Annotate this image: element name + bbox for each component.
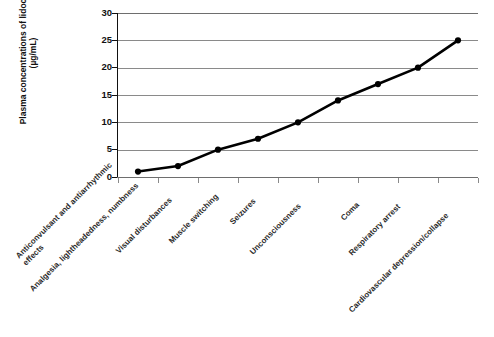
data-point	[175, 163, 181, 169]
data-point	[255, 136, 261, 142]
data-point	[335, 97, 341, 103]
data-point	[455, 37, 461, 43]
x-label-unconsciousness: Unconsciousness	[248, 172, 332, 256]
y-axis-title-line1: Plasma concentrations of lidocaine	[18, 0, 28, 124]
y-tick-label-10: 10	[90, 117, 112, 126]
y-tick-label-30: 30	[90, 8, 112, 17]
data-point	[295, 119, 301, 125]
y-axis-title-unit: (µg/mL)	[28, 0, 38, 138]
y-tick-label-20: 20	[90, 62, 112, 71]
y-tick-label-15: 15	[90, 90, 112, 99]
y-tick-label-25: 25	[90, 35, 112, 44]
data-point	[375, 81, 381, 87]
y-tick-label-5: 5	[90, 144, 112, 153]
x-label-visual-disturbances: Visual disturbances	[114, 171, 198, 255]
data-point	[215, 147, 221, 153]
series-markers	[135, 37, 461, 174]
chart-plot-wrapper: Plasma concentrations of lidocaine (µg/m…	[0, 0, 494, 200]
x-axis-category-labels: Anticonvulsant and antiarrhythmic effect…	[0, 182, 494, 337]
data-series-lidocaine	[118, 13, 478, 177]
data-point	[415, 65, 421, 71]
figure-container: cut-off text line from facing page Plasm…	[0, 0, 494, 337]
series-line	[138, 40, 458, 171]
y-axis-title: Plasma concentrations of lidocaine (µg/m…	[18, 0, 40, 138]
x-label-cardiovascular: Cardiovascular depression/collapse	[347, 188, 474, 315]
